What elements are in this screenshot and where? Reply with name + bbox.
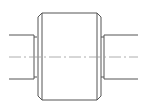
bushing-body bbox=[38, 13, 101, 100]
technical-drawing bbox=[0, 0, 150, 109]
